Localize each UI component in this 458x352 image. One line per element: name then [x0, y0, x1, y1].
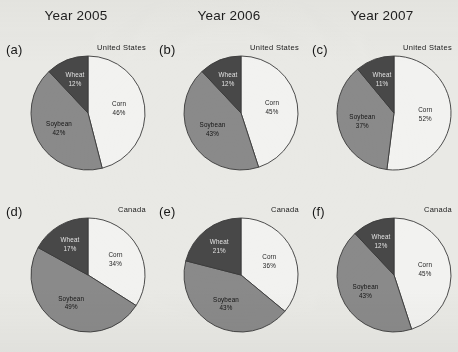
panel-letter: (f) [312, 204, 325, 219]
region-label: Canada [271, 205, 299, 214]
pie-chart: Corn36%Soybean43%Wheat21% [181, 215, 301, 335]
column-title-2006: Year 2006 [153, 8, 305, 23]
pie-panel-c: (c)United StatesCorn52%Soybean37%Wheat11… [306, 26, 458, 190]
pie-slices [181, 53, 301, 173]
region-label: United States [250, 43, 299, 52]
panel-letter: (b) [159, 42, 176, 57]
region-label: Canada [424, 205, 452, 214]
pie-slice-corn [387, 56, 451, 170]
panel-letter: (a) [6, 42, 23, 57]
pie-panel-f: (f)CanadaCorn45%Soybean43%Wheat12% [306, 188, 458, 352]
region-label: United States [97, 43, 146, 52]
pie-panel-d: (d)CanadaCorn34%Soybean49%Wheat17% [0, 188, 152, 352]
region-label: United States [403, 43, 452, 52]
pie-chart: Corn52%Soybean37%Wheat11% [334, 53, 454, 173]
region-label: Canada [118, 205, 146, 214]
pie-chart: Corn46%Soybean42%Wheat12% [28, 53, 148, 173]
panel-letter: (c) [312, 42, 328, 57]
pie-slices [28, 215, 148, 335]
panel-letter: (e) [159, 204, 176, 219]
pie-slices [334, 215, 454, 335]
pie-slices [181, 215, 301, 335]
pie-chart: Corn45%Soybean43%Wheat12% [334, 215, 454, 335]
pie-chart: Corn34%Soybean49%Wheat17% [28, 215, 148, 335]
column-title-2007: Year 2007 [306, 8, 458, 23]
pie-panel-b: (b)United StatesCorn45%Soybean43%Wheat12… [153, 26, 305, 190]
pie-chart: Corn45%Soybean43%Wheat12% [181, 53, 301, 173]
panel-letter: (d) [6, 204, 23, 219]
pie-panel-e: (e)CanadaCorn36%Soybean43%Wheat21% [153, 188, 305, 352]
pie-chart-figure: Year 2005 Year 2006 Year 2007 (a)United … [0, 0, 458, 352]
pie-slices [28, 53, 148, 173]
pie-panel-a: (a)United StatesCorn46%Soybean42%Wheat12… [0, 26, 152, 190]
column-title-2005: Year 2005 [0, 8, 152, 23]
pie-slices [334, 53, 454, 173]
